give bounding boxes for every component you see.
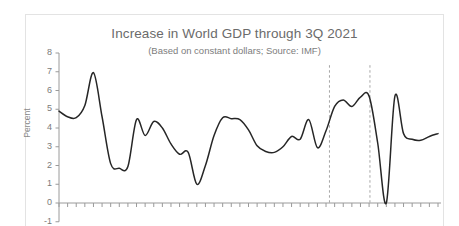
data-series-line (59, 73, 438, 204)
chart-plot-area (0, 0, 459, 226)
